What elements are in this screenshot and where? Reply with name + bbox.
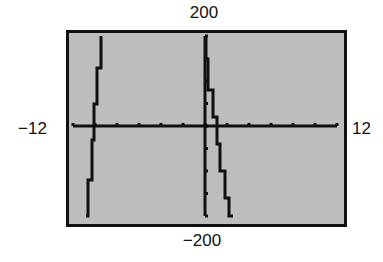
calculator-graph-screen: [0, 0, 383, 262]
